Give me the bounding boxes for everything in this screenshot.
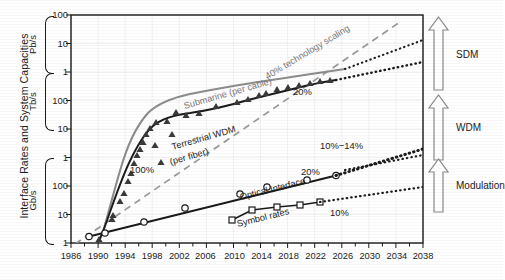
annotation-growth-10-14: 10%−14% — [320, 140, 363, 151]
x-tick-2038: 2038 — [413, 251, 434, 261]
annotation-growth-10: 10% — [330, 207, 349, 218]
x-tick-2022: 2022 — [305, 251, 326, 261]
x-tick-2034: 2034 — [387, 251, 408, 261]
side-label-modulation: Modulation — [456, 180, 505, 191]
side-label-sdm: SDM — [456, 49, 478, 60]
x-tick-2010: 2010 — [224, 251, 245, 261]
annotation-growth-20-wdm: 20% — [293, 86, 312, 97]
x-tick-1998: 1998 — [142, 251, 163, 261]
x-tick-1986: 1986 — [61, 251, 82, 261]
x-tick-2030: 2030 — [359, 251, 380, 261]
x-tick-1994: 1994 — [115, 251, 136, 261]
x-tick-2006: 2006 — [195, 251, 216, 261]
side-label-wdm: WDM — [456, 122, 481, 133]
x-tick-2002: 2002 — [169, 251, 190, 261]
x-tick-2026: 2026 — [332, 251, 353, 261]
x-tick-1990: 1990 — [88, 251, 109, 261]
x-tick-2018: 2018 — [278, 251, 299, 261]
x-tick-2014: 2014 — [251, 251, 272, 261]
annotation-growth-20-interface: 20% — [301, 166, 320, 177]
annotation-growth-100: 100% — [130, 164, 154, 175]
